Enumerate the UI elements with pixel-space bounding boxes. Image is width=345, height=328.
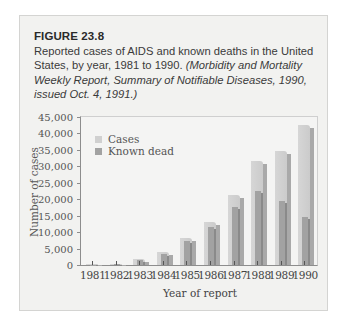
x-tick-label: 1989 [269,269,295,281]
bar-group-1984 [155,117,177,265]
y-tick-mark [77,166,81,167]
y-tick-mark [77,117,81,118]
bar-dead [184,241,190,265]
bar-cases-side [98,265,102,266]
chart-plot-area: Cases Known dead Number of cases 1981198… [80,116,318,266]
bar-dead-side [285,203,287,265]
y-tick-mark [77,133,81,134]
bar-cases-side [145,262,149,265]
bar-group-1990 [296,117,318,265]
x-tick-mark [139,261,140,265]
bar-group-1983 [131,117,153,265]
y-tick-label: 15,000 [38,210,73,221]
bar-cases-side [240,198,244,265]
bar-dead-side [261,193,263,265]
y-tick-label: 25,000 [38,177,73,188]
y-tick-mark [77,249,81,250]
bar-group-1981 [84,117,106,265]
bar-dead [161,254,167,266]
y-tick-mark [77,216,81,217]
bar-cases-side [310,128,314,265]
figure-panel: FIGURE 23.8 Reported cases of AIDS and k… [19,15,328,311]
y-tick-mark [77,150,81,151]
bar-dead [232,207,238,265]
y-tick-label: 45,000 [38,112,73,123]
bar-cases-side [263,164,267,265]
y-tick-label: 20,000 [38,194,73,205]
bar-dead-side [214,229,216,265]
bar-dead-side [308,219,310,265]
y-tick-label: 10,000 [38,227,73,238]
bar-group-1988 [249,117,271,265]
bar-dead-side [167,256,169,266]
y-tick-label: 30,000 [38,161,73,172]
y-tick-label: 0 [67,260,73,271]
y-tick-mark [77,265,81,266]
x-tick-mark [163,261,164,265]
bar-dead [208,227,214,265]
x-tick-label: 1988 [245,269,271,281]
x-tick-mark [186,261,187,265]
figure-label: FIGURE 23.8 [34,30,104,42]
y-tick-mark [77,183,81,184]
bar-group-1986 [202,117,224,265]
y-tick-mark [77,199,81,200]
bar-dead-side [190,243,192,265]
x-tick-mark [234,261,235,265]
bar-dead [279,201,285,265]
x-tick-label: 1987 [222,269,248,281]
bar-cases-side [216,225,220,265]
bar-dead [114,264,120,265]
bar-dead-side [96,265,98,266]
x-tick-label: 1990 [292,269,318,281]
bar-dead [255,191,261,265]
x-axis-labels: 1981198219831984198519861987198819891990 [81,269,319,283]
bar-cases-side [287,154,291,265]
x-tick-mark [304,261,305,265]
x-tick-mark [116,261,117,265]
y-tick-label: 35,000 [38,144,73,155]
bar-cases-side [169,255,173,265]
bar-group-1982 [108,117,130,265]
bar-dead [302,217,308,265]
x-tick-mark [281,261,282,265]
x-tick-label: 1982 [104,269,130,281]
bar-group-1987 [226,117,248,265]
y-tick-label: 40,000 [38,128,73,139]
bar-group-1989 [273,117,295,265]
y-tick-label: 5,000 [44,243,73,254]
bar-dead [137,260,143,265]
y-tick-mark [77,232,81,233]
x-axis-title: Year of report [163,287,237,299]
bar-group-1985 [178,117,200,265]
bar-dead-side [143,262,145,265]
x-tick-label: 1985 [174,269,200,281]
figure-caption: Reported cases of AIDS and known deaths … [34,44,324,101]
bar-cases-side [192,241,196,265]
x-tick-label: 1983 [127,269,153,281]
x-tick-mark [210,261,211,265]
bar-dead [90,265,96,266]
x-tick-mark [92,261,93,265]
bar-dead-side [120,265,122,266]
x-tick-label: 1984 [151,269,177,281]
x-tick-mark [257,261,258,265]
bar-cases-side [122,265,126,266]
x-tick-label: 1981 [80,269,106,281]
bar-dead-side [238,209,240,265]
x-tick-label: 1986 [198,269,224,281]
